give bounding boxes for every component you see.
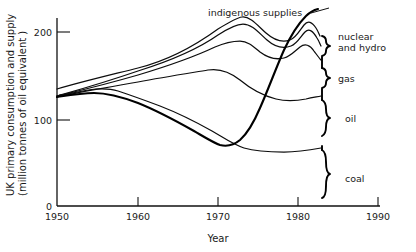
- y-axis-tick-labels: 200 100 0: [34, 27, 52, 212]
- x-tick-label-1960: 1960: [126, 211, 150, 222]
- y-tick-label-0: 0: [46, 201, 52, 212]
- brace-nuclear-and-hydro: [322, 36, 330, 56]
- brace-coal: [322, 150, 330, 198]
- series-line-coal: [57, 89, 321, 152]
- annotation-indigenous-supplies: indigenous supplies: [208, 7, 302, 18]
- series-line-total-primary-consumption: [57, 17, 320, 89]
- x-tick-label-1980: 1980: [286, 211, 310, 222]
- x-tick-label-1990: 1990: [366, 211, 390, 222]
- y-axis-label-line2: (million tonnes of oil equivalent ): [17, 31, 28, 196]
- series-line-total-inland-demand: [57, 24, 321, 96]
- band-braces: [322, 36, 330, 198]
- y-tick-label-200: 200: [34, 27, 52, 38]
- band-label-gas: gas: [338, 73, 355, 84]
- chart-canvas: UK primary consumption and supply (milli…: [0, 0, 416, 252]
- band-label-coal: coal: [345, 173, 365, 184]
- x-tick-label-1970: 1970: [206, 211, 230, 222]
- y-axis-label: UK primary consumption and supply (milli…: [5, 14, 28, 196]
- y-axis-ticks: [57, 32, 70, 120]
- x-axis-ticks: [138, 197, 378, 206]
- y-tick-label-100: 100: [34, 115, 52, 126]
- series-line-indigenous-supplies: [57, 9, 318, 146]
- x-axis-title: Year: [206, 233, 229, 244]
- series-line-upper-band-edge: [57, 41, 321, 96]
- chart-figure: UK primary consumption and supply (milli…: [0, 0, 416, 252]
- brace-oil: [322, 100, 330, 136]
- band-label-oil: oil: [345, 113, 356, 124]
- x-tick-label-1950: 1950: [45, 211, 69, 222]
- brace-gas: [322, 68, 330, 88]
- series-line-coal-plus-oil: [57, 69, 321, 100]
- band-label-nuclear: nuclear: [338, 31, 374, 42]
- y-axis-label-line1: UK primary consumption and supply: [5, 14, 16, 196]
- band-label-and-hydro: and hydro: [338, 42, 386, 53]
- x-axis-tick-labels: 1950 1960 1970 1980 1990: [45, 211, 390, 222]
